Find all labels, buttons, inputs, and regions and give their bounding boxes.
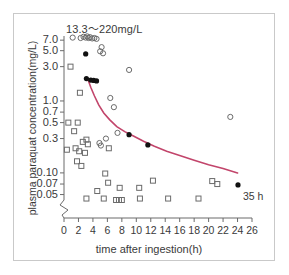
chart-title: 13.3〜220mg/L <box>66 20 142 36</box>
y-tick-label: 5.0 <box>24 44 58 56</box>
y-tick-label: 0.3 <box>24 132 58 144</box>
chart-axes <box>60 36 252 218</box>
x-axis-label: time after ingestion(h) <box>59 243 239 255</box>
x-tick-label: 26 <box>244 224 260 236</box>
data-points-filled-circle <box>83 51 150 147</box>
y-tick-label: 3.0 <box>24 60 58 72</box>
fit-curve <box>88 79 238 173</box>
y-tick-label: 0.05 <box>24 188 58 200</box>
x-tick-marks <box>64 218 252 222</box>
data-points-open-circle <box>70 34 233 148</box>
data-points-open-square <box>64 64 219 202</box>
y-tick-label: 0.5 <box>24 116 58 128</box>
annotation-label: 35 h <box>243 190 263 202</box>
y-tick-marks <box>60 40 64 194</box>
annotation-marker <box>235 182 240 187</box>
y-axis-break-icon <box>60 200 68 218</box>
